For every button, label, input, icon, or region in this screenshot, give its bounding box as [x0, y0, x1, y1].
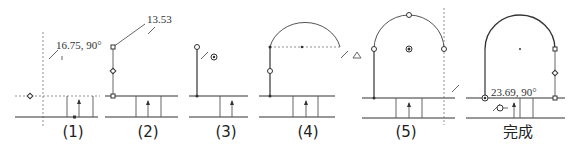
step-1-label: (1) — [62, 123, 83, 141]
step-3-label: (3) — [215, 123, 236, 141]
step-1-panel: 16.75, 90° (1) — [15, 32, 102, 141]
step-1-annotation: 16.75, 90° — [56, 39, 102, 51]
step-complete-annotation: 23.69, 90° — [491, 86, 537, 98]
step-2-panel: 13.53 (2) — [105, 13, 178, 141]
step-5-label: (5) — [395, 123, 416, 141]
step-4-label: (4) — [297, 123, 318, 141]
step-complete-label: 完成 — [503, 123, 533, 141]
step-4-panel: (4) — [259, 22, 361, 141]
step-5-panel: (5) — [362, 8, 459, 141]
step-2-annotation: 13.53 — [147, 13, 172, 25]
step-2-label: (2) — [137, 123, 158, 141]
step-3-panel: (3) — [189, 45, 248, 142]
step-complete-panel: 23.69, 90° 完成 — [466, 15, 565, 141]
sketch-sequence-diagram: 16.75, 90° (1) 13.53 (2) (3) — [0, 0, 576, 151]
